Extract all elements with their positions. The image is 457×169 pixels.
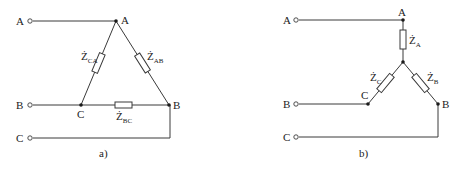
- terminal-label-a: A: [16, 15, 24, 27]
- node-label-c: C: [361, 89, 368, 101]
- resistor-zbc: [115, 102, 132, 108]
- node-a: [114, 19, 118, 23]
- node-b: [436, 102, 440, 106]
- impedance-label-zb: ŻB: [427, 71, 439, 86]
- terminal-c: [294, 135, 298, 139]
- terminal-c: [28, 136, 32, 140]
- terminal-b: [28, 103, 32, 107]
- impedance-label-zca: ŻCA: [81, 50, 97, 65]
- wye-circuit: A B C A B C ŻA ŻB ŻC b): [283, 6, 449, 160]
- impedance-label-zab: ŻAB: [147, 50, 164, 65]
- caption-a: a): [99, 147, 108, 160]
- terminal-label-a: A: [283, 14, 291, 26]
- impedance-label-zc: ŻC: [370, 71, 382, 86]
- node-c: [79, 103, 83, 107]
- terminal-a: [28, 19, 32, 23]
- impedance-label-za: ŻA: [409, 34, 421, 49]
- node-label-c: C: [77, 108, 84, 120]
- node-c: [366, 102, 370, 106]
- wire-c: [33, 105, 170, 138]
- resistor-za: [400, 30, 406, 49]
- terminal-label-c: C: [283, 131, 290, 143]
- delta-circuit: A B C A B C ŻCA ŻAB ŻBC a): [16, 14, 180, 160]
- node-label-b: B: [173, 99, 180, 111]
- node-b: [167, 103, 171, 107]
- wire-c: [299, 104, 438, 137]
- terminal-label-c: C: [16, 132, 23, 144]
- terminal-label-b: B: [283, 98, 290, 110]
- node-label-a: A: [398, 6, 406, 18]
- terminal-label-b: B: [16, 99, 23, 111]
- node-a: [401, 18, 405, 22]
- node-label-a: A: [121, 14, 129, 26]
- impedance-label-zbc: ŻBC: [116, 110, 132, 125]
- caption-b: b): [359, 147, 369, 160]
- terminal-a: [294, 18, 298, 22]
- circuit-figure: A B C A B C ŻCA ŻAB ŻBC a): [0, 0, 457, 169]
- neutral-node: [401, 60, 405, 64]
- node-label-b: B: [442, 98, 449, 110]
- terminal-b: [294, 102, 298, 106]
